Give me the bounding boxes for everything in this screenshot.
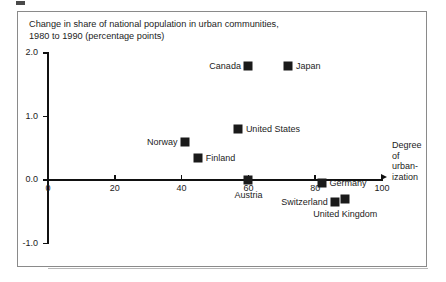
y-axis-tick: [43, 116, 48, 118]
data-point-marker[interactable]: [180, 137, 189, 146]
data-point-marker[interactable]: [331, 198, 340, 207]
x-axis-tick-label: 20: [100, 183, 130, 193]
x-axis-tick-label: 100: [367, 183, 397, 193]
x-axis-tick: [114, 175, 116, 180]
y-axis-tick: [43, 243, 48, 245]
data-point-marker[interactable]: [317, 179, 326, 188]
y-axis-tick-label: 2.0: [8, 47, 38, 57]
x-axis-tick: [181, 175, 183, 180]
x-axis-tick-label: 0: [33, 183, 63, 193]
x-axis-title: Degree of urban- ization: [392, 140, 442, 182]
data-point-label: Canada: [209, 61, 241, 71]
y-axis-tick: [43, 52, 48, 54]
scatter-plot: Degree of urban- ization 2.01.00.0-1.002…: [0, 0, 446, 282]
figure-container: Change in share of national population i…: [0, 0, 446, 282]
data-point-marker[interactable]: [341, 195, 350, 204]
data-point-label: Norway: [147, 137, 178, 147]
data-point-marker[interactable]: [244, 61, 253, 70]
y-axis-tick-label: 1.0: [8, 111, 38, 121]
x-axis-tick: [381, 175, 383, 180]
y-axis-tick: [43, 179, 48, 181]
data-point-marker[interactable]: [194, 153, 203, 162]
data-point-label: Japan: [296, 61, 321, 71]
data-point-label: Switzerland: [281, 197, 328, 207]
data-point-label: Germany: [329, 178, 366, 188]
data-point-label: United States: [246, 124, 300, 134]
data-point-marker[interactable]: [234, 125, 243, 134]
y-axis-line: [47, 52, 49, 244]
data-point-marker[interactable]: [244, 176, 253, 185]
x-axis-tick: [314, 175, 316, 180]
data-point-marker[interactable]: [284, 61, 293, 70]
x-axis-tick-label: 40: [167, 183, 197, 193]
data-point-label: Finland: [206, 153, 236, 163]
y-axis-tick-label: -1.0: [8, 238, 38, 248]
data-point-label: Austria: [234, 190, 262, 200]
data-point-label: United Kingdom: [313, 209, 377, 219]
